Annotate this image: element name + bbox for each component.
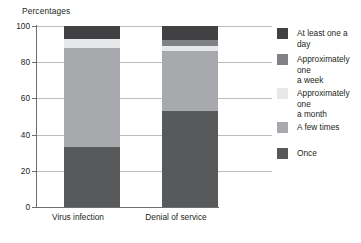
segment-once[interactable] bbox=[64, 147, 120, 207]
legend-item-a-few-times[interactable]: A few times bbox=[277, 122, 339, 133]
gridline-ext-80 bbox=[218, 62, 272, 63]
y-tick-20 bbox=[32, 171, 36, 172]
legend-label: At least one a day bbox=[297, 28, 361, 49]
segment-at-least-one-a-day[interactable] bbox=[162, 26, 218, 40]
legend-label: A few times bbox=[297, 122, 339, 133]
legend-label: Approximately one a week bbox=[297, 54, 361, 86]
x-axis-line bbox=[36, 207, 219, 208]
y-tick-100 bbox=[32, 26, 36, 27]
y-tick-label-40: 40 bbox=[4, 131, 30, 139]
chart-figure: Percentages bbox=[0, 0, 361, 243]
segment-once[interactable] bbox=[162, 111, 218, 207]
y-axis-line bbox=[36, 25, 37, 208]
legend-item-approximately-one-a-week[interactable]: Approximately one a week bbox=[277, 54, 361, 86]
y-tick-60 bbox=[32, 98, 36, 99]
segment-at-least-one-a-day[interactable] bbox=[64, 26, 120, 39]
legend-swatch-icon bbox=[277, 54, 288, 65]
y-tick-label-80: 80 bbox=[4, 58, 30, 66]
segment-a-few-times[interactable] bbox=[162, 51, 218, 111]
gridline-ext-40 bbox=[218, 135, 272, 136]
y-tick-0 bbox=[32, 207, 36, 208]
y-tick-label-0-wrap: 0 bbox=[0, 203, 30, 213]
gridline-ext-100 bbox=[218, 26, 272, 27]
x-tick-label-virus-infection: Virus infection bbox=[34, 212, 122, 222]
legend-item-at-least-one-a-day[interactable]: At least one a day bbox=[277, 28, 361, 49]
legend-item-once[interactable]: Once bbox=[277, 148, 317, 159]
y-tick-label-100: 100 bbox=[4, 22, 30, 30]
legend-swatch-icon bbox=[277, 88, 288, 99]
y-tick-label-80-wrap: 80 bbox=[0, 58, 30, 68]
segment-approximately-one-a-week[interactable] bbox=[162, 40, 218, 46]
gridline-ext-60 bbox=[218, 98, 272, 99]
bar-virus-infection[interactable] bbox=[64, 26, 120, 207]
y-tick-label-60-wrap: 60 bbox=[0, 94, 30, 104]
y-tick-40 bbox=[32, 135, 36, 136]
gridline-ext-20 bbox=[218, 171, 272, 172]
legend-label: Approximately one a month bbox=[297, 88, 361, 120]
y-tick-label-20: 20 bbox=[4, 167, 30, 175]
legend-item-approximately-one-a-month[interactable]: Approximately one a month bbox=[277, 88, 361, 120]
segment-approximately-one-a-month[interactable] bbox=[162, 46, 218, 51]
y-tick-label-100-wrap: 100 bbox=[0, 22, 30, 32]
legend-swatch-icon bbox=[277, 28, 288, 39]
legend-swatch-icon bbox=[277, 122, 288, 133]
plot-area bbox=[36, 26, 218, 207]
segment-approximately-one-a-month[interactable] bbox=[64, 39, 120, 48]
y-axis-title: Percentages bbox=[22, 6, 70, 16]
y-tick-label-0: 0 bbox=[4, 203, 30, 211]
y-tick-label-60: 60 bbox=[4, 94, 30, 102]
y-tick-label-40-wrap: 40 bbox=[0, 131, 30, 141]
bar-denial-of-service[interactable] bbox=[162, 26, 218, 207]
x-tick-label-denial-of-service: Denial of service bbox=[130, 212, 222, 222]
y-tick-label-20-wrap: 20 bbox=[0, 167, 30, 177]
legend-swatch-icon bbox=[277, 148, 288, 159]
legend-label: Once bbox=[297, 148, 317, 159]
segment-a-few-times[interactable] bbox=[64, 48, 120, 147]
y-tick-80 bbox=[32, 62, 36, 63]
